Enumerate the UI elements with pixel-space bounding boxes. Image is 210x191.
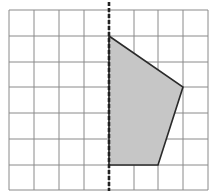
reflection-diagram: [0, 0, 210, 191]
grid-canvas: [0, 0, 210, 191]
quadrilateral-shape: [109, 36, 183, 165]
